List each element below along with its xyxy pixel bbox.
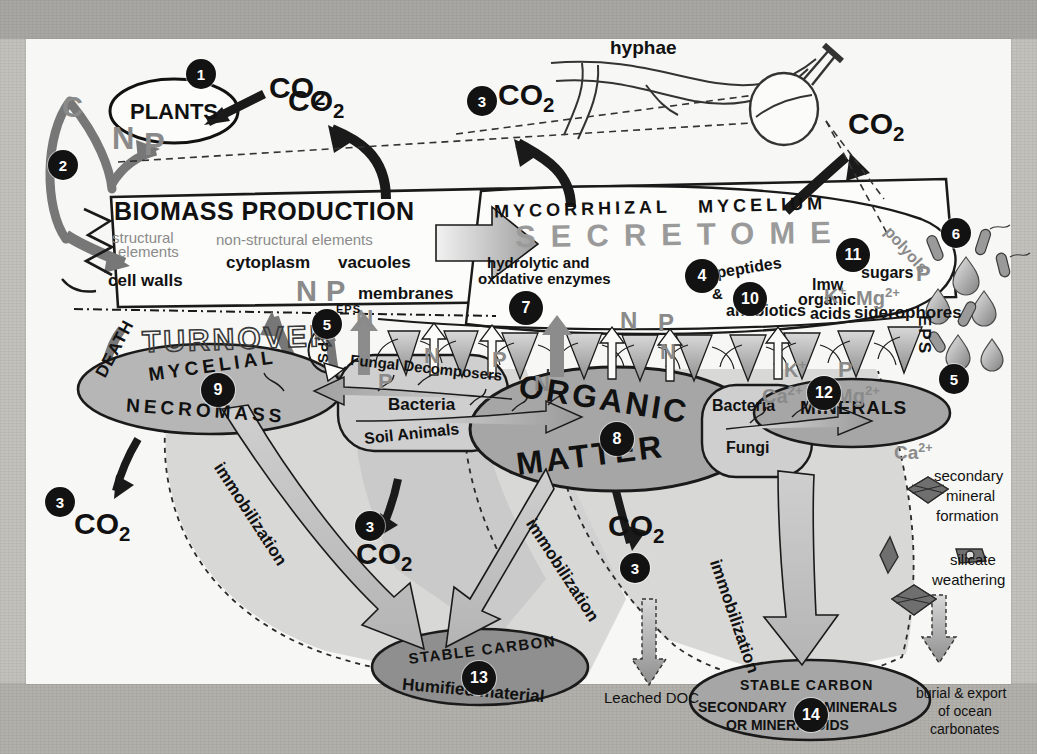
badge-3-3[interactable]: 3 xyxy=(45,487,75,517)
badge-3-4[interactable]: 3 xyxy=(355,511,385,541)
letter-p-secretome: P xyxy=(916,261,931,287)
secondary-mineral-line2: mineral xyxy=(946,487,995,504)
soil-letter-p-2: P xyxy=(492,347,507,373)
badge-13-16[interactable]: 13 xyxy=(462,661,496,695)
badge-12-15[interactable]: 12 xyxy=(807,376,841,410)
soil-letter-mg: Mg2+ xyxy=(836,383,880,408)
letter-k-secretome: K+ xyxy=(824,283,846,308)
badge-8-11[interactable]: 8 xyxy=(600,422,634,456)
sugars-label: sugars xyxy=(861,264,913,282)
leached-doc-label: Leached DOC xyxy=(604,689,699,706)
stable-carbon-14-line1: STABLE CARBON xyxy=(740,677,873,693)
letter-n-membranes: N xyxy=(296,275,317,308)
badge-3-2[interactable]: 3 xyxy=(467,86,497,116)
stable-carbon-14-minerals: MINERALS xyxy=(824,699,897,715)
badge-5-8[interactable]: 5 xyxy=(939,364,969,394)
biomass-production-title: BIOMASS PRODUCTION xyxy=(114,197,415,226)
badge-10-13[interactable]: 10 xyxy=(733,282,767,316)
badge-9-12[interactable]: 9 xyxy=(201,373,235,407)
badge-7-10[interactable]: 7 xyxy=(509,291,543,325)
fungi-mineral-label: Fungi xyxy=(726,439,770,457)
soil-letter-p-3: P xyxy=(838,357,853,383)
cell-walls-label: cell walls xyxy=(108,271,183,291)
badge-3-5[interactable]: 3 xyxy=(620,553,650,583)
soil-letter-ca: Ca2+ xyxy=(762,383,803,408)
arrow-biomass-to-co2 xyxy=(328,125,386,199)
badge-11-14[interactable]: 11 xyxy=(836,238,870,272)
co2-decomposers-label: CO2 xyxy=(356,537,412,576)
plants-label: PLANTS xyxy=(130,99,218,125)
vacuoles-label: vacuoles xyxy=(338,253,411,273)
ca-ion-right-label: Ca2+ xyxy=(894,441,933,464)
badge-2-1[interactable]: 2 xyxy=(48,150,78,180)
badge-6-9[interactable]: 6 xyxy=(941,218,971,248)
letter-p-plants: P xyxy=(144,127,165,163)
figure-canvas: PLANTS CO2 CO2 CO2 CO2 hyphae C N P BIOM… xyxy=(26,39,1011,684)
cytoplasm-label: cytoplasm xyxy=(226,253,310,273)
stable-carbon-14-line3: OR MINERALOIDS xyxy=(726,717,849,733)
badge-5-7[interactable]: 5 xyxy=(312,309,342,339)
co2-hyphae-label: CO2 xyxy=(848,107,904,146)
weathering-label: weathering xyxy=(932,571,1005,588)
co2-organic-label: CO2 xyxy=(608,509,664,548)
secondary-mineral-line3: formation xyxy=(936,507,999,524)
organic-acids-line2: acids xyxy=(810,305,851,323)
burial-export-line1: burial & export xyxy=(916,685,1006,701)
silicate-label: silicate xyxy=(950,551,996,568)
hydrolytic-line1: hydrolytic and xyxy=(487,254,590,271)
letter-p-mid-secretome: P xyxy=(658,309,674,337)
biomass-lower-boundary xyxy=(74,309,496,316)
secondary-mineral-line1: secondary xyxy=(934,467,1003,484)
soil-letter-p-1: P xyxy=(378,369,393,395)
magnifier-icon xyxy=(750,45,842,145)
eps-left-label: EPS xyxy=(336,303,361,315)
badge-14-17[interactable]: 14 xyxy=(794,698,828,732)
letter-n-mid-secretome: N xyxy=(620,307,637,335)
letter-c-plants: C xyxy=(62,91,83,124)
structural-elements-line2: elements xyxy=(118,243,179,260)
burial-export-line2: of ocean xyxy=(938,703,992,719)
arrow-necromass-to-co2 xyxy=(114,439,138,499)
letter-mg-secretome: Mg2+ xyxy=(856,285,900,310)
hydrolytic-line2: oxidative enzymes xyxy=(478,270,611,287)
co2-biomass-out-label: CO2 xyxy=(288,84,344,123)
badge-4-6[interactable]: 4 xyxy=(685,259,719,293)
badge-1-0[interactable]: 1 xyxy=(186,59,216,89)
mycelium-label: MYCELIUM xyxy=(698,193,827,218)
co2-necromass-label: CO2 xyxy=(74,507,130,546)
eps-right-label: EPS xyxy=(914,315,934,355)
membranes-label: membranes xyxy=(358,284,453,304)
soil-letter-k: K+ xyxy=(784,357,806,382)
soil-letter-n-2: N xyxy=(534,371,550,397)
letter-n-plants: N xyxy=(112,121,134,157)
soil-letter-n-1: N xyxy=(424,343,440,369)
burial-export-line3: carbonates xyxy=(930,721,999,737)
bacteria-decomposers-label: Bacteria xyxy=(388,395,455,415)
stable-carbon-14-secondary: SECONDARY xyxy=(698,699,787,715)
hyphae-label: hyphae xyxy=(610,37,677,59)
soil-letter-n-3: N xyxy=(660,339,676,365)
nonstructural-elements-label: non-structural elements xyxy=(216,231,373,248)
co2-secretome-label: CO2 xyxy=(498,78,554,117)
secretome-label: SECRETOME xyxy=(515,215,846,256)
